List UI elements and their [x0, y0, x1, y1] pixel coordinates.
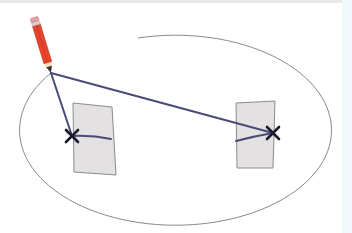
ellipse-construction-diagram: [0, 0, 352, 233]
string-to-left-pin: [51, 73, 72, 136]
pencil-icon: [30, 16, 55, 74]
